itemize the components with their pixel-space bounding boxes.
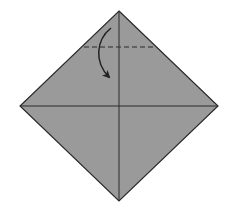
origami-diagram bbox=[0, 0, 229, 215]
